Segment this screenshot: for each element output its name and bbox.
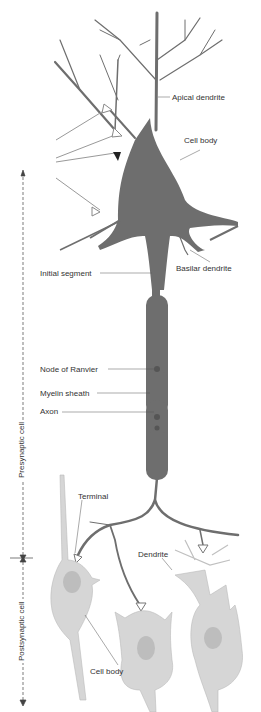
label-cell-body-bottom: Cell body: [90, 668, 123, 676]
incoming-axons: [56, 110, 115, 210]
label-dendrite: Dendrite: [138, 551, 168, 559]
label-cell-body-top: Cell body: [184, 137, 217, 145]
neuron-diagram: [0, 0, 261, 712]
label-terminal: Terminal: [78, 493, 108, 501]
label-apical-dendrite: Apical dendrite: [172, 94, 225, 102]
label-basilar-dendrite: Basilar dendrite: [176, 265, 232, 273]
label-axon: Axon: [40, 408, 58, 416]
postsynaptic-cells: [51, 475, 243, 712]
postsynaptic-cell-2: [115, 611, 173, 712]
node-of-ranvier: [154, 366, 160, 372]
label-initial-segment: Initial segment: [40, 270, 92, 278]
label-postsynaptic-cell: Postsynaptic cell: [18, 599, 26, 663]
label-node-of-ranvier: Node of Ranvier: [40, 366, 98, 374]
label-myelin-sheath: Myelin sheath: [40, 390, 89, 398]
apical-dendrite-branches: [55, 13, 222, 138]
label-presynaptic-cell: Presynaptic cell: [18, 420, 26, 480]
